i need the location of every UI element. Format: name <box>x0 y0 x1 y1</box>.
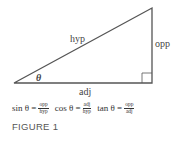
trig-formulas: sin θ = opp hyp cos θ = adj hyp tan θ = … <box>12 102 140 114</box>
cos-denominator: hyp <box>83 109 91 115</box>
sin-fraction: opp hyp <box>38 102 48 114</box>
adjacent-label: adj <box>79 86 91 97</box>
hypotenuse-label: hyp <box>70 33 85 44</box>
right-angle-marker <box>142 73 152 83</box>
tan-fraction: opp adj <box>124 102 134 114</box>
sin-denominator: hyp <box>39 109 47 115</box>
right-triangle-diagram: hyp opp adj θ <box>0 0 192 100</box>
tan-formula: tan θ = opp adj <box>97 102 134 114</box>
figure-caption: FIGURE 1 <box>12 121 58 132</box>
cos-label: cos θ = <box>55 103 81 113</box>
sin-label: sin θ = <box>12 103 36 113</box>
tan-denominator: adj <box>126 109 133 115</box>
figure: hyp opp adj θ sin θ = opp hyp cos θ = ad… <box>0 0 192 144</box>
cos-formula: cos θ = adj hyp <box>55 102 92 114</box>
triangle <box>14 8 152 83</box>
theta-label: θ <box>36 72 42 83</box>
cos-fraction: adj hyp <box>83 102 92 114</box>
tan-label: tan θ = <box>97 103 122 113</box>
opposite-label: opp <box>155 38 170 49</box>
sin-formula: sin θ = opp hyp <box>12 102 49 114</box>
